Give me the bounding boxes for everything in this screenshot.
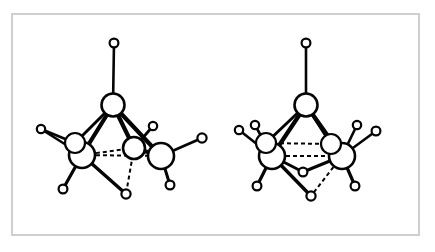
bond-layer bbox=[41, 43, 376, 196]
molecular-diagram-canvas bbox=[0, 0, 435, 252]
atom-h-R-H-fr bbox=[372, 127, 381, 136]
atom-h-L-H-fr bbox=[197, 133, 206, 142]
atom-h-L-H-bl bbox=[59, 185, 68, 194]
atom-h-L-H-apex bbox=[110, 39, 119, 48]
atom-c-L-C-mid bbox=[123, 137, 145, 159]
atom-c-L-C-apex bbox=[102, 94, 125, 117]
atom-c-R-C-gr bbox=[321, 134, 341, 154]
atom-c-L-C-ghost bbox=[65, 133, 85, 153]
figure-root bbox=[0, 0, 435, 252]
atom-h-L-H-br bbox=[166, 181, 175, 190]
atom-h-R-H-bot bbox=[306, 191, 315, 200]
atom-h-R-H-ul bbox=[251, 121, 259, 129]
atom-layer bbox=[37, 39, 381, 201]
atom-c-R-C-apex bbox=[295, 94, 318, 117]
atom-h-R-H-br bbox=[351, 182, 360, 191]
atom-h-L-H-fl bbox=[37, 125, 45, 133]
atom-h-R-H-apex bbox=[302, 39, 311, 48]
left-model-bonds bbox=[41, 43, 202, 194]
atom-h-L-H-bot bbox=[121, 189, 130, 198]
atom-h-R-H-bl bbox=[253, 182, 262, 191]
atom-h-R-H-midbot bbox=[299, 168, 308, 177]
atom-h-L-H-midtop bbox=[149, 122, 157, 130]
atom-h-R-H-fl bbox=[235, 126, 243, 134]
right-model-atoms bbox=[235, 39, 381, 201]
atom-c-L-C-right bbox=[148, 143, 174, 169]
atom-h-R-H-ur bbox=[353, 121, 361, 129]
atom-c-R-C-gl bbox=[256, 133, 276, 153]
